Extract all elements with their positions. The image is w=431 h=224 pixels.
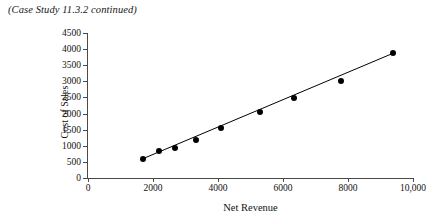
y-tick-label: 2000 — [62, 109, 81, 119]
data-point — [156, 148, 162, 154]
x-tick — [153, 178, 154, 182]
y-tick-label: 500 — [67, 157, 81, 167]
x-tick — [283, 178, 284, 182]
data-point — [140, 156, 146, 162]
data-point — [172, 145, 178, 151]
x-tick-label: 2000 — [144, 183, 163, 193]
y-tick-label: 1500 — [62, 125, 81, 135]
x-axis-title: Net Revenue — [88, 202, 413, 213]
plot-area: 050010001500200025003000350040004500 020… — [88, 33, 413, 178]
y-tick-label: 4500 — [62, 28, 81, 38]
x-tick-label: 10,000 — [400, 183, 426, 193]
x-axis-line — [87, 178, 413, 179]
data-point — [390, 50, 396, 56]
data-point — [257, 109, 263, 115]
figure-caption: (Case Study 11.3.2 continued) — [8, 4, 137, 15]
x-tick-label: 8000 — [339, 183, 358, 193]
data-point — [291, 95, 297, 101]
data-points — [88, 33, 413, 178]
y-tick-label: 4000 — [62, 44, 81, 54]
x-tick-label: 6000 — [274, 183, 293, 193]
data-point — [218, 125, 224, 131]
y-tick-label: 2500 — [62, 92, 81, 102]
figure: (Case Study 11.3.2 continued) Cost of Sa… — [0, 0, 431, 224]
y-tick-label: 3500 — [62, 60, 81, 70]
y-tick-label: 0 — [76, 173, 81, 183]
x-tick-label: 0 — [86, 183, 91, 193]
x-tick — [348, 178, 349, 182]
data-point — [193, 137, 199, 143]
y-tick-label: 3000 — [62, 76, 81, 86]
x-tick — [88, 178, 89, 182]
x-tick-label: 4000 — [209, 183, 228, 193]
y-tick-label: 1000 — [62, 141, 81, 151]
data-point — [338, 78, 344, 84]
x-tick — [413, 178, 414, 182]
x-tick — [218, 178, 219, 182]
